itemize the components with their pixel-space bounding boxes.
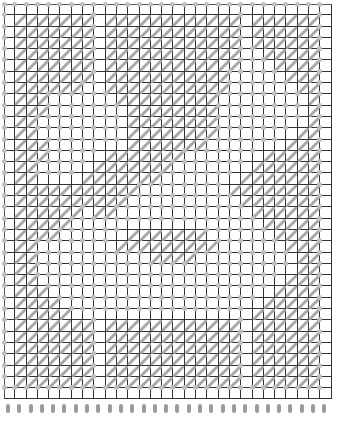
grid-row [4,162,332,173]
peg-icon [207,402,218,416]
stitch-cell [140,366,151,377]
empty-cell [94,60,105,71]
stitch-cell [60,354,71,365]
stitch-cell [286,298,297,309]
stitch-cell [128,332,139,343]
stitch-cell [15,219,26,230]
stitch-cell [15,366,26,377]
empty-cell [320,15,331,26]
peg-icon [309,402,320,416]
empty-cell [286,253,297,264]
stitch-cell [106,15,117,26]
stitch-cell [207,15,218,26]
stitch-cell [173,230,184,241]
peg-icon [83,402,94,416]
empty-cell [320,151,331,162]
peg-icon [151,402,162,416]
peg-icon [106,402,117,416]
stitch-cell [253,366,264,377]
stitch-cell [128,140,139,151]
stitch-cell [286,185,297,196]
stitch-cell [140,60,151,71]
empty-cell [320,253,331,264]
empty-cell [286,264,297,275]
peg-icon [27,402,38,416]
stitch-cell [185,94,196,105]
stitch-cell [173,128,184,139]
empty-cell [320,286,331,297]
empty-cell [320,320,331,331]
peg-icon [253,402,264,416]
stitch-cell [27,94,38,105]
stitch-cell [173,27,184,38]
grid-row [4,388,332,399]
stitch-cell [140,140,151,151]
stitch-cell [298,60,309,71]
stitch-cell [185,60,196,71]
peg-icon [162,402,173,416]
stitch-cell [27,207,38,218]
stitch-cell [72,60,83,71]
empty-cell [320,128,331,139]
peg-icon [185,402,196,416]
empty-cell [94,366,105,377]
grid-row [4,185,332,196]
stitch-cell [15,72,26,83]
grid-row [4,230,332,241]
peg-icon [128,402,139,416]
stitch-cell [173,106,184,117]
stitch-cell [298,320,309,331]
stitch-cell [219,15,230,26]
empty-cell [241,354,252,365]
stitch-cell [207,60,218,71]
stitch-cell [15,264,26,275]
stitch-cell [241,185,252,196]
grid-row [4,275,332,286]
peg-icon [72,402,83,416]
empty-cell [94,38,105,49]
stitch-cell [27,366,38,377]
grid-row [4,151,332,162]
stitch-cell [15,253,26,264]
grid-row [4,286,332,297]
empty-cell [94,320,105,331]
empty-cell [94,72,105,83]
empty-cell [320,298,331,309]
stitch-cell [207,38,218,49]
stitch-cell [207,320,218,331]
stitch-cell [140,332,151,343]
stitch-cell [173,60,184,71]
empty-cell [94,151,105,162]
empty-cell [320,27,331,38]
peg-icon [60,402,71,416]
stitch-cell [286,151,297,162]
stitch-cell [286,38,297,49]
empty-cell [94,332,105,343]
stitch-cell [219,354,230,365]
stitch-cell [128,320,139,331]
stitch-cell [173,94,184,105]
stitch-cell [286,27,297,38]
peg-icon [15,402,26,416]
empty-cell [320,173,331,184]
grid-row [4,27,332,38]
stitch-cell [286,241,297,252]
empty-cell [320,185,331,196]
stitch-cell [253,354,264,365]
stitch-cell [27,60,38,71]
grid-row [4,264,332,275]
grid-row [4,173,332,184]
stitch-cell [241,173,252,184]
empty-cell [320,354,331,365]
stitch-cell [173,354,184,365]
peg-icon [140,402,151,416]
stitch-cell [207,27,218,38]
stitch-cell [15,185,26,196]
stitch-cell [173,241,184,252]
stitch-cell [173,320,184,331]
grid-row [4,343,332,354]
peg-icon [4,402,15,416]
stitch-cell [106,354,117,365]
stitch-cell [60,332,71,343]
stitch-cell [128,366,139,377]
